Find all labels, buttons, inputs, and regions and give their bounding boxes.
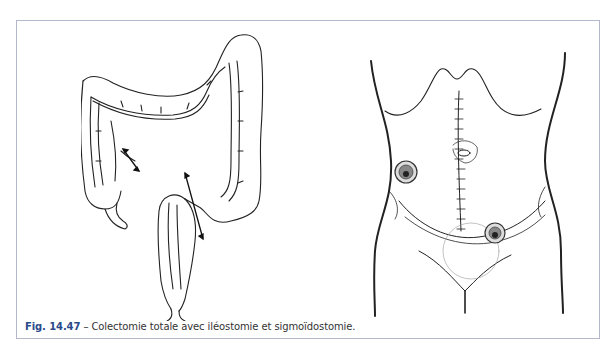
abdomen-illustration bbox=[369, 51, 579, 321]
figure-label: Fig. 14.47 bbox=[25, 321, 80, 332]
colon-illustration bbox=[81, 31, 321, 321]
caption-separator: – bbox=[80, 321, 91, 332]
caption-text: Colectomie totale avec iléostomie et sig… bbox=[91, 321, 355, 332]
figure-frame bbox=[16, 20, 600, 339]
figure-caption: Fig. 14.47 – Colectomie totale avec iléo… bbox=[25, 321, 355, 332]
